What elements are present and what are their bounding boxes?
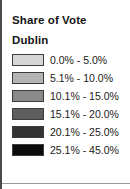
- legend-class-label: 25.1% - 45.0%: [50, 144, 119, 156]
- legend-class-label: 10.1% - 15.0%: [50, 90, 119, 102]
- legend-class-label: 0.0% - 5.0%: [50, 54, 107, 66]
- legend-subtitle-region: Dublin: [12, 34, 130, 47]
- legend-class-label: 5.1% - 10.0%: [50, 72, 113, 84]
- legend-color-swatch: [12, 90, 44, 102]
- legend-class-item: 25.1% - 45.0%: [12, 141, 130, 159]
- legend-color-swatch: [12, 144, 44, 156]
- legend-title: Share of Vote: [12, 14, 130, 27]
- legend-class-item: 10.1% - 15.0%: [12, 87, 130, 105]
- legend-color-swatch: [12, 126, 44, 138]
- legend-class-item: 20.1% - 25.0%: [12, 123, 130, 141]
- legend-class-item: 15.1% - 20.0%: [12, 105, 130, 123]
- legend-color-swatch: [12, 54, 44, 66]
- legend-class-item: 0.0% - 5.0%: [12, 51, 130, 69]
- map-legend-panel: Share of Vote Dublin 0.0% - 5.0% 5.1% - …: [0, 0, 130, 189]
- legend-body: Share of Vote Dublin 0.0% - 5.0% 5.1% - …: [0, 0, 130, 159]
- legend-class-item: 5.1% - 10.0%: [12, 69, 130, 87]
- legend-frame-bottom-rule: [2, 183, 130, 184]
- legend-class-label: 20.1% - 25.0%: [50, 126, 119, 138]
- legend-color-swatch: [12, 72, 44, 84]
- legend-class-list: 0.0% - 5.0% 5.1% - 10.0% 10.1% - 15.0% 1…: [12, 51, 130, 159]
- legend-class-label: 15.1% - 20.0%: [50, 108, 119, 120]
- legend-color-swatch: [12, 108, 44, 120]
